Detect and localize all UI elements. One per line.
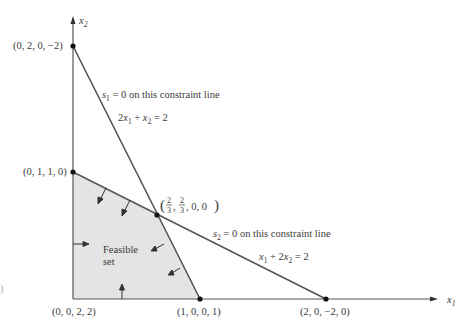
- x1-axis-arrow-icon: [430, 297, 438, 302]
- svg-text:2: 2: [180, 196, 184, 205]
- vertex-label-2-0: (2, 0, −2, 0): [300, 306, 350, 318]
- vertex-label-0-0: (0, 0, 2, 2): [52, 306, 96, 318]
- svg-text:): ): [214, 197, 219, 214]
- x1-axis-label: x1: [446, 294, 455, 308]
- feasible-region: [73, 172, 200, 299]
- vertex-label-intersection: ( 2 3 , 2 3 , 0, 0 ): [160, 196, 219, 215]
- s2-note: s2 = 0 on this constraint line: [213, 228, 331, 242]
- constraint-eq-1: 2x1 + x2 = 2: [118, 112, 168, 126]
- svg-text:, 0, 0: , 0, 0: [186, 201, 207, 212]
- margin-mark: ): [0, 283, 4, 295]
- s1-note: s1 = 0 on this constraint line: [102, 89, 220, 103]
- svg-text:3: 3: [180, 206, 184, 215]
- vertex-label-1-0: (1, 0, 0, 1): [177, 306, 221, 318]
- svg-text:2: 2: [167, 196, 171, 205]
- vertex-label-0-1: (0, 1, 1, 0): [23, 166, 67, 178]
- svg-text:(: (: [160, 197, 165, 214]
- x2-axis-arrow-icon: [71, 16, 76, 24]
- lp-feasible-region-diagram: x2 x1 (0, 2, 0, −2) (0, 1, 1, 0) (0, 0, …: [0, 0, 466, 326]
- svg-text:3: 3: [167, 206, 171, 215]
- x2-axis-label: x2: [78, 15, 88, 29]
- vertex-label-0-2: (0, 2, 0, −2): [13, 40, 63, 52]
- feasible-set-label-2: set: [103, 256, 115, 267]
- svg-text:,: ,: [173, 201, 176, 212]
- feasible-set-label: Feasible: [103, 244, 138, 255]
- constraint-eq-2: x1 + 2x2 = 2: [258, 251, 309, 265]
